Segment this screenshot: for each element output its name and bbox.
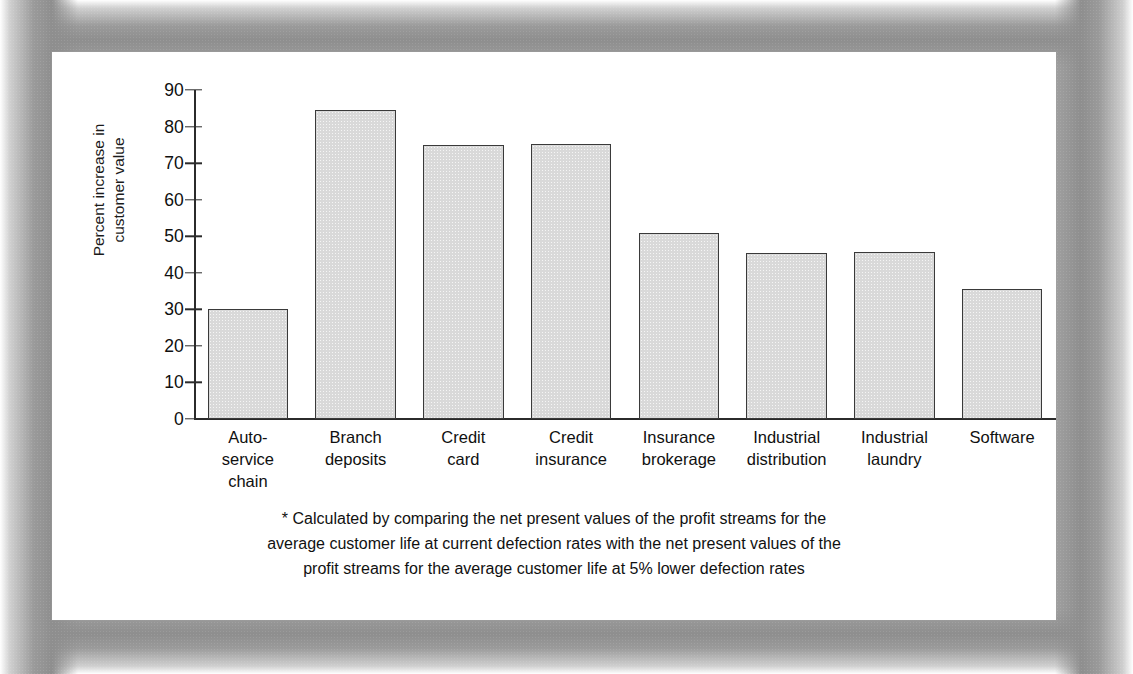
bar[interactable] [208,309,288,419]
y-axis-title: Percent increase in customer value [89,75,129,305]
x-axis-category-label: Credit insurance [517,426,625,470]
x-axis-category-label: Software [948,426,1056,448]
bar-slot [746,90,826,419]
bar-slot [854,90,934,419]
y-axis-title-line-1: Percent increase in [89,124,109,257]
x-axis-category-label: Industrial distribution [733,426,841,470]
bar-slot [639,90,719,419]
y-axis-tick-mark [185,418,202,419]
bar[interactable] [746,253,826,419]
y-axis-tick-label: 90 [140,80,184,101]
y-axis-tick-mark [185,236,202,237]
x-axis-category-labels: Auto- service chainBranch depositsCredit… [194,426,1056,512]
y-axis-tick-mark [185,345,202,346]
y-axis-title-line-2: customer value [109,137,129,242]
y-axis-tick-label: 70 [140,153,184,174]
y-axis-tick-label: 40 [140,262,184,283]
x-axis-category-label: Credit card [410,426,518,470]
chart-footnote: * Calculated by comparing the net presen… [114,507,994,581]
y-axis-tick-label: 50 [140,226,184,247]
bar-chart: Percent increase in customer value 01020… [52,52,1056,452]
bar[interactable] [531,144,611,419]
bars-layer [194,90,1056,419]
x-axis-category-label: Industrial laundry [841,426,949,470]
y-axis-tick-mark [185,162,202,163]
bar-slot [962,90,1042,419]
footnote-line: * Calculated by comparing the net presen… [114,507,994,532]
footnote-line: average customer life at current defecti… [114,532,994,557]
y-axis-tick-labels: 0102030405060708090 [140,90,184,418]
y-axis-tick-label: 80 [140,116,184,137]
bar[interactable] [315,110,395,419]
footnote-line: profit streams for the average customer … [114,557,994,582]
bar-slot [423,90,503,419]
y-axis-tick-mark [185,272,202,273]
bar[interactable] [639,233,719,419]
bar-slot [315,90,395,419]
bar-slot [531,90,611,419]
exhibit-card: Percent increase in customer value 01020… [52,52,1056,620]
y-axis-tick-mark [185,199,202,200]
x-axis-category-label: Auto- service chain [194,426,302,492]
x-axis-category-label: Branch deposits [302,426,410,470]
y-axis-tick-label: 60 [140,189,184,210]
bar[interactable] [962,289,1042,420]
y-axis-tick-mark [185,382,202,383]
bar[interactable] [854,252,934,419]
bar-slot [208,90,288,419]
bar[interactable] [423,145,503,419]
x-axis-category-label: Insurance brokerage [625,426,733,470]
y-axis-tick-mark [185,309,202,310]
y-axis-tick-label: 10 [140,372,184,393]
y-axis-tick-mark [185,89,202,90]
y-axis-tick-label: 20 [140,335,184,356]
y-axis-tick-label: 0 [140,409,184,430]
y-axis-tick-label: 30 [140,299,184,320]
y-axis-tick-mark [185,126,202,127]
